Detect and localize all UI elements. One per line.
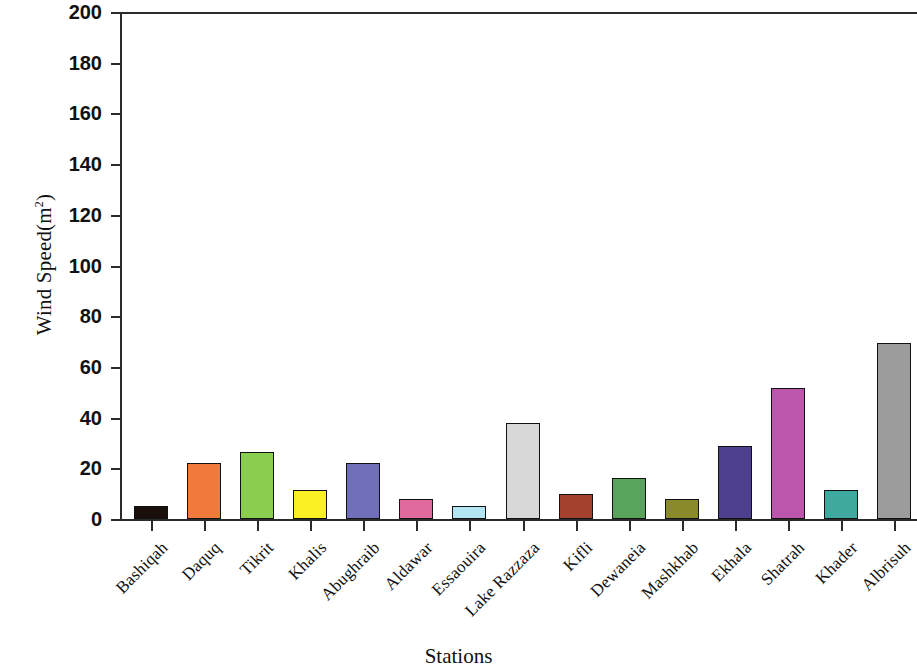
bar bbox=[559, 494, 593, 519]
y-axis-tick-labels: 020406080100120140160180200 bbox=[44, 0, 102, 670]
y-axis-tick-label: 100 bbox=[50, 256, 102, 276]
bar bbox=[771, 388, 805, 519]
bar bbox=[877, 343, 911, 519]
y-axis-tick-mark bbox=[111, 164, 120, 166]
bar bbox=[240, 452, 274, 519]
y-axis-tick-mark bbox=[111, 63, 120, 65]
y-axis-tick-label: 200 bbox=[50, 2, 102, 22]
y-axis-tick-mark bbox=[111, 519, 120, 521]
y-axis-tick-label: 120 bbox=[50, 205, 102, 225]
y-axis-tick-label: 20 bbox=[50, 458, 102, 478]
bar bbox=[506, 423, 540, 519]
y-axis-tick-label: 40 bbox=[50, 408, 102, 428]
bar bbox=[346, 463, 380, 519]
y-axis-tick-mark bbox=[111, 266, 120, 268]
y-axis-tick-mark bbox=[111, 316, 120, 318]
bar bbox=[718, 446, 752, 520]
bar bbox=[293, 490, 327, 519]
y-axis-tick-label: 140 bbox=[50, 154, 102, 174]
y-axis-tick-label: 60 bbox=[50, 357, 102, 377]
bar bbox=[665, 499, 699, 519]
bar bbox=[612, 478, 646, 519]
y-axis-tick-label: 180 bbox=[50, 53, 102, 73]
x-axis-tick-labels: BashiqahDaquqTikritKhalisAbughraibAldawa… bbox=[120, 521, 917, 641]
bar bbox=[187, 463, 221, 519]
bar bbox=[399, 499, 433, 519]
bar bbox=[134, 506, 168, 519]
y-axis-tick-label: 160 bbox=[50, 103, 102, 123]
plot-top-border bbox=[120, 12, 917, 14]
y-axis-tick-label: 0 bbox=[50, 509, 102, 529]
plot-area bbox=[120, 12, 917, 521]
y-axis-tick-mark bbox=[111, 12, 120, 14]
y-axis-tick-mark bbox=[111, 215, 120, 217]
y-axis-line bbox=[120, 12, 122, 521]
x-axis-title: Stations bbox=[0, 644, 917, 669]
bar-chart: Wind Speed(m2) 0204060801001201401601802… bbox=[0, 0, 917, 670]
y-axis-tick-label: 80 bbox=[50, 306, 102, 326]
bar bbox=[824, 490, 858, 519]
y-axis-tick-mark bbox=[111, 468, 120, 470]
y-axis-tick-mark bbox=[111, 418, 120, 420]
y-axis-tick-mark bbox=[111, 367, 120, 369]
y-axis-tick-mark bbox=[111, 113, 120, 115]
bar bbox=[452, 506, 486, 519]
